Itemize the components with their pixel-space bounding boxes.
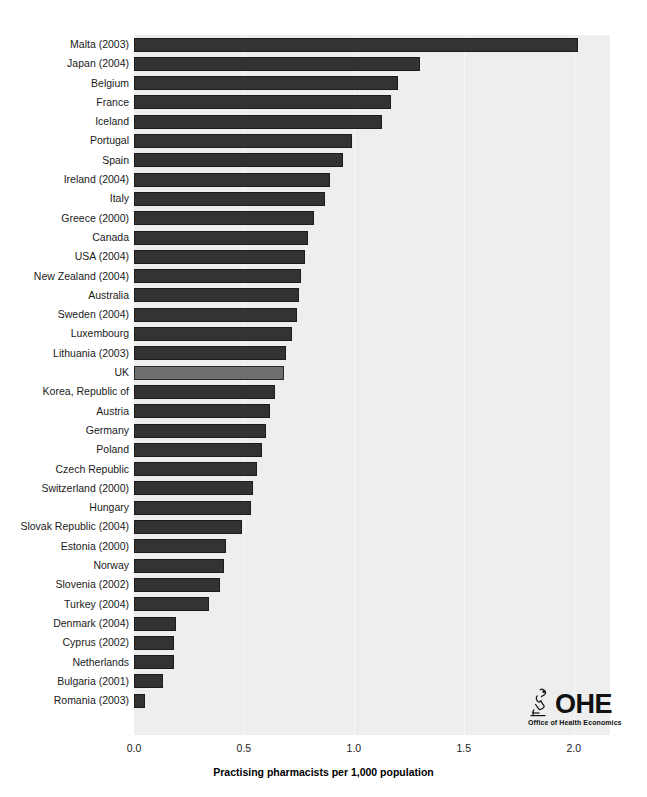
category-label: Greece (2000) <box>61 211 129 225</box>
category-label: Japan (2004) <box>67 56 129 70</box>
bar-row: Hungary <box>0 498 647 517</box>
bar-chart: Malta (2003)Japan (2004)BelgiumFranceIce… <box>0 0 647 797</box>
category-label: Netherlands <box>72 655 129 669</box>
bar-row: New Zealand (2004) <box>0 267 647 286</box>
bar <box>134 250 305 264</box>
category-label: Spain <box>102 153 129 167</box>
category-label: Belgium <box>91 76 129 90</box>
category-label: Estonia (2000) <box>61 539 129 553</box>
category-label: Cyprus (2002) <box>62 635 129 649</box>
bar <box>134 288 299 302</box>
category-label: Ireland (2004) <box>64 172 129 186</box>
bar-row: Portugal <box>0 131 647 150</box>
bar <box>134 38 578 52</box>
logo-subtitle: Office of Health Economics <box>528 719 622 726</box>
bar-row: Denmark (2004) <box>0 614 647 633</box>
ohe-logo: OHE Office of Health Economics <box>527 686 631 730</box>
category-label: Korea, Republic of <box>43 384 129 398</box>
bar-row: Canada <box>0 228 647 247</box>
bar <box>134 115 382 129</box>
bar <box>134 539 226 553</box>
logo-wordmark: OHE <box>555 691 612 718</box>
category-label: Lithuania (2003) <box>53 346 129 360</box>
category-label: Romania (2003) <box>54 693 129 707</box>
bar <box>134 346 286 360</box>
bar-row: Lithuania (2003) <box>0 344 647 363</box>
bar-row: Slovenia (2002) <box>0 575 647 594</box>
x-tick-label: 1.5 <box>456 742 471 754</box>
bar <box>134 327 292 341</box>
x-axis-title: Practising pharmacists per 1,000 populat… <box>0 766 647 778</box>
category-label: Hungary <box>89 500 129 514</box>
category-label: Bulgaria (2001) <box>57 674 129 688</box>
bar <box>134 385 275 399</box>
bar-row: UK <box>0 363 647 382</box>
bar <box>134 76 398 90</box>
bar <box>134 443 262 457</box>
bar <box>134 153 343 167</box>
bar <box>134 269 301 283</box>
x-tick-label: 0.5 <box>237 742 252 754</box>
bar-row: Norway <box>0 556 647 575</box>
bar-row: Japan (2004) <box>0 54 647 73</box>
x-tick-label: 2.0 <box>566 742 581 754</box>
bar-row: Cyprus (2002) <box>0 633 647 652</box>
bar-row: Sweden (2004) <box>0 305 647 324</box>
bar <box>134 520 242 534</box>
bar-rows: Malta (2003)Japan (2004)BelgiumFranceIce… <box>0 35 647 710</box>
x-axis: 0.00.51.01.52.0 Practising pharmacists p… <box>0 735 647 797</box>
bar <box>134 134 352 148</box>
category-label: New Zealand (2004) <box>34 269 129 283</box>
bar <box>134 597 209 611</box>
logo-top-row: OHE <box>527 686 612 718</box>
microscope-icon <box>527 686 557 718</box>
category-label: Luxembourg <box>71 326 129 340</box>
bar-row: USA (2004) <box>0 247 647 266</box>
category-label: Turkey (2004) <box>64 597 129 611</box>
bar-row: Poland <box>0 440 647 459</box>
bar-row: Australia <box>0 286 647 305</box>
bar <box>134 578 220 592</box>
bar <box>134 481 253 495</box>
bar-row: Czech Republic <box>0 460 647 479</box>
bar <box>134 192 325 206</box>
category-label: UK <box>114 365 129 379</box>
category-label: Slovenia (2002) <box>55 577 129 591</box>
bar-row: Germany <box>0 421 647 440</box>
category-label: Denmark (2004) <box>53 616 129 630</box>
bar <box>134 559 224 573</box>
bar <box>134 95 391 109</box>
bar <box>134 674 163 688</box>
bar <box>134 655 174 669</box>
bar-row: Spain <box>0 151 647 170</box>
bar-row: Greece (2000) <box>0 209 647 228</box>
bar-row: Belgium <box>0 74 647 93</box>
bar-row: Iceland <box>0 112 647 131</box>
bar-row: Slovak Republic (2004) <box>0 517 647 536</box>
bar <box>134 404 270 418</box>
bar <box>134 636 174 650</box>
category-label: Poland <box>96 442 129 456</box>
bar <box>134 617 176 631</box>
bar <box>134 501 251 515</box>
category-label: Australia <box>88 288 129 302</box>
category-label: Norway <box>93 558 129 572</box>
bar <box>134 308 297 322</box>
category-label: USA (2004) <box>75 249 129 263</box>
x-tick-label: 1.0 <box>347 742 362 754</box>
bar <box>134 424 266 438</box>
bar <box>134 462 257 476</box>
bar-row: Netherlands <box>0 653 647 672</box>
bar-row: France <box>0 93 647 112</box>
bar <box>134 173 330 187</box>
category-label: Iceland <box>95 114 129 128</box>
category-label: Slovak Republic (2004) <box>20 519 129 533</box>
x-tick-label: 0.0 <box>127 742 142 754</box>
category-label: Canada <box>92 230 129 244</box>
category-label: Malta (2003) <box>70 37 129 51</box>
category-label: Sweden (2004) <box>58 307 129 321</box>
category-label: Austria <box>96 404 129 418</box>
bar-row: Italy <box>0 189 647 208</box>
category-label: Czech Republic <box>55 462 129 476</box>
bar <box>134 57 420 71</box>
